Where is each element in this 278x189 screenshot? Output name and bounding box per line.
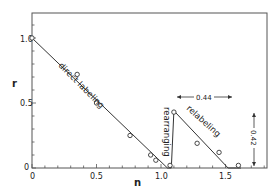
data-point: [168, 163, 172, 167]
chart: 1.0 0.5 0 0 0.5 1.0 1.5 r n direct label…: [0, 0, 278, 189]
data-point: [154, 158, 158, 162]
x-tick-label-1: 1.0: [155, 172, 168, 181]
dimension-h-label: 0.44: [196, 94, 212, 102]
data-point: [217, 150, 221, 154]
y-tick-label-05: 0.5: [20, 99, 33, 108]
arrow-up-icon: [252, 113, 256, 117]
dimension-0-44: 0.44: [177, 94, 232, 102]
x-tick-label-05: 0.5: [90, 172, 103, 181]
data-point: [148, 153, 152, 157]
arrow-left-icon: [177, 95, 181, 99]
arrow-down-icon: [252, 162, 256, 166]
data-point: [195, 141, 199, 145]
x-axis-label: n: [134, 177, 141, 188]
x-tick-label-0: 0: [30, 172, 35, 181]
dimension-0-42: 0.42: [249, 113, 257, 166]
fitted-line: [32, 38, 241, 168]
direct-labeling-annotation: direct labeling: [57, 60, 107, 110]
relabeling-annotation: relabeling: [185, 103, 223, 139]
rearranging-annotation: rearranging: [162, 107, 172, 157]
arrow-right-icon: [228, 95, 232, 99]
plot-frame: [32, 13, 267, 168]
y-tick-label-0: 0: [24, 163, 29, 172]
data-point: [128, 133, 132, 137]
dimension-v-label: 0.42: [249, 130, 257, 146]
x-tick-label-15: 1.5: [219, 172, 232, 181]
y-axis-label: r: [12, 78, 17, 89]
data-point: [30, 36, 34, 40]
data-point: [236, 163, 240, 167]
